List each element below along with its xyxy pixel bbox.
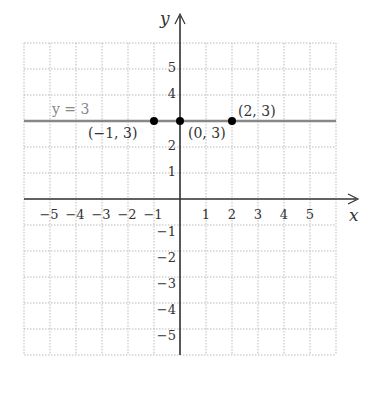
y-tick-label: −2	[157, 250, 176, 265]
y-axis-label: y	[159, 8, 170, 28]
coordinate-plane: −5−4−3−2−112345−5−4−3−2−11245 y = 3 (−1,…	[0, 0, 379, 401]
point-label: (2, 3)	[238, 103, 276, 119]
data-point	[228, 117, 236, 125]
x-tick-label: −4	[65, 207, 84, 222]
y-tick-label: 2	[168, 138, 176, 153]
data-point	[176, 117, 184, 125]
data-point	[150, 117, 158, 125]
x-tick-label: −3	[91, 207, 110, 222]
x-tick-label: 5	[306, 207, 314, 222]
y-tick-label: −4	[157, 302, 176, 317]
x-tick-label: −5	[39, 207, 58, 222]
line-equation-label: y = 3	[51, 101, 89, 117]
x-tick-label: −2	[117, 207, 136, 222]
axes	[24, 14, 358, 355]
y-tick-label: −3	[157, 276, 176, 291]
x-tick-label: 3	[254, 207, 262, 222]
y-tick-label: −1	[157, 224, 176, 239]
point-label: (0, 3)	[188, 125, 226, 141]
point-label: (−1, 3)	[88, 125, 137, 141]
y-tick-label: 4	[168, 86, 176, 101]
x-axis-label: x	[349, 205, 359, 225]
y-tick-label: 5	[168, 60, 176, 75]
y-tick-label: −5	[157, 328, 176, 343]
x-tick-label: 1	[202, 207, 210, 222]
y-tick-label: 1	[168, 164, 176, 179]
x-tick-label: −1	[143, 207, 162, 222]
x-tick-label: 4	[280, 207, 288, 222]
x-tick-label: 2	[228, 207, 236, 222]
